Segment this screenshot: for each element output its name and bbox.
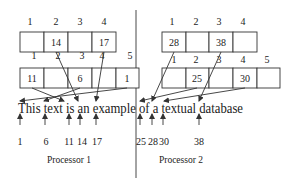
processor-2-top-array: 1 2 3 4 28 38	[162, 16, 257, 52]
position-label: 1	[18, 136, 23, 147]
index-label: 4	[102, 16, 107, 27]
processor-1-positions: 1 6 11 14 17 Processor 1	[18, 114, 103, 165]
cell-value: 17	[99, 37, 109, 48]
index-label: 3	[78, 16, 83, 27]
cell-value: 25	[192, 73, 202, 84]
index-label: 1	[28, 16, 33, 27]
position-label: 14	[77, 136, 87, 147]
position-label: 28	[148, 136, 158, 147]
array-cell	[92, 68, 116, 88]
index-label: 3	[80, 50, 85, 61]
cell-value: 11	[27, 73, 37, 84]
position-label: 11	[64, 136, 74, 147]
cell-value: 6	[78, 73, 83, 84]
array-cell	[233, 32, 257, 52]
position-label: 17	[92, 136, 102, 147]
index-label: 1	[32, 50, 37, 61]
index-label: 2	[54, 16, 59, 27]
cell-value: 38	[216, 37, 226, 48]
cell-value: 14	[51, 37, 61, 48]
processor-2-label: Processor 2	[159, 155, 203, 165]
index-label: 5	[128, 50, 133, 61]
processor-1-top-array: 1 2 3 4 14 17	[20, 16, 116, 52]
array-cell	[20, 32, 44, 52]
index-label: 4	[241, 54, 246, 65]
index-label: 2	[194, 16, 199, 27]
array-cell	[257, 68, 280, 88]
index-label: 4	[241, 16, 246, 27]
suffix-array-diagram: 1 2 3 4 14 17 1 2 3 4 5 11 6 1	[0, 0, 296, 190]
processor-2-positions: 25 28 30 38 Processor 2	[136, 114, 204, 165]
index-label: 2	[194, 54, 199, 65]
index-label: 3	[217, 16, 222, 27]
index-label: 5	[265, 54, 270, 65]
position-label: 38	[194, 136, 204, 147]
cell-value: 28	[169, 37, 179, 48]
position-label: 30	[159, 136, 169, 147]
index-label: 1	[170, 16, 175, 27]
array-cell	[186, 32, 209, 52]
position-label: 25	[136, 136, 146, 147]
processor-2-bottom-array: 1 2 3 4 5 25 30	[162, 54, 280, 88]
processor-1-label: Processor 1	[47, 155, 91, 165]
processor-1-bottom-array: 1 2 3 4 5 11 6 1	[20, 50, 139, 88]
array-cell	[68, 32, 92, 52]
cell-value: 30	[240, 73, 250, 84]
text-database-sentence: This text is an example of a textual dat…	[18, 100, 243, 116]
position-label: 6	[44, 136, 49, 147]
cell-value: 1	[125, 73, 130, 84]
